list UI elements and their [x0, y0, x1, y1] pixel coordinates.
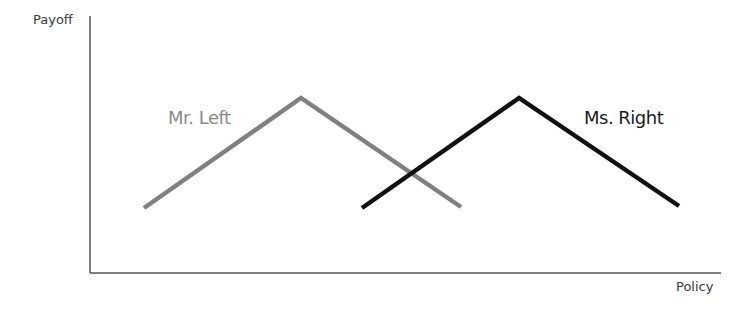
- ms-right-label: Ms. Right: [584, 107, 663, 128]
- y-axis-label: Payoff: [33, 12, 73, 27]
- mr-left-label: Mr. Left: [168, 107, 231, 128]
- payoff-diagram: [0, 0, 755, 313]
- x-axis-label: Policy: [676, 279, 713, 294]
